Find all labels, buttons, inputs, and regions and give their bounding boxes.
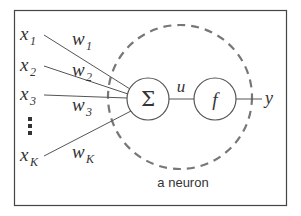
svg-text:1: 1 bbox=[30, 34, 36, 48]
svg-text:w: w bbox=[72, 28, 85, 49]
svg-text:1: 1 bbox=[86, 39, 92, 53]
svg-text:x: x bbox=[19, 144, 29, 165]
weight-label-w3: w 3 bbox=[72, 94, 92, 119]
svg-text:K: K bbox=[29, 155, 39, 169]
weight-label-w1: w 1 bbox=[72, 28, 92, 53]
svg-text:x: x bbox=[19, 83, 29, 104]
svg-text:2: 2 bbox=[30, 65, 36, 79]
input-label-x2: x 2 bbox=[19, 54, 36, 79]
ellipsis-dots bbox=[28, 117, 32, 135]
svg-text:x: x bbox=[19, 23, 29, 44]
input-label-xk: x K bbox=[19, 144, 39, 169]
input-label-x1: x 1 bbox=[19, 23, 36, 48]
output-label-y: y bbox=[263, 88, 273, 108]
neuron-diagram: Σ u f y x 1 x 2 x 3 x K w 1 w 2 w 3 w bbox=[0, 0, 301, 216]
intermediate-label-u: u bbox=[177, 77, 186, 96]
input-label-x3: x 3 bbox=[19, 83, 36, 108]
svg-text:3: 3 bbox=[29, 94, 36, 108]
svg-text:x: x bbox=[19, 54, 29, 75]
svg-text:3: 3 bbox=[85, 105, 92, 119]
svg-text:w: w bbox=[72, 59, 85, 80]
svg-text:w: w bbox=[72, 141, 85, 162]
weight-label-wk: w K bbox=[72, 141, 95, 166]
summation-symbol: Σ bbox=[141, 87, 155, 111]
svg-text:w: w bbox=[72, 94, 85, 115]
svg-text:K: K bbox=[85, 152, 95, 166]
input-line-3 bbox=[44, 95, 127, 98]
svg-text:2: 2 bbox=[86, 70, 92, 84]
neuron-caption: a neuron bbox=[157, 175, 208, 190]
